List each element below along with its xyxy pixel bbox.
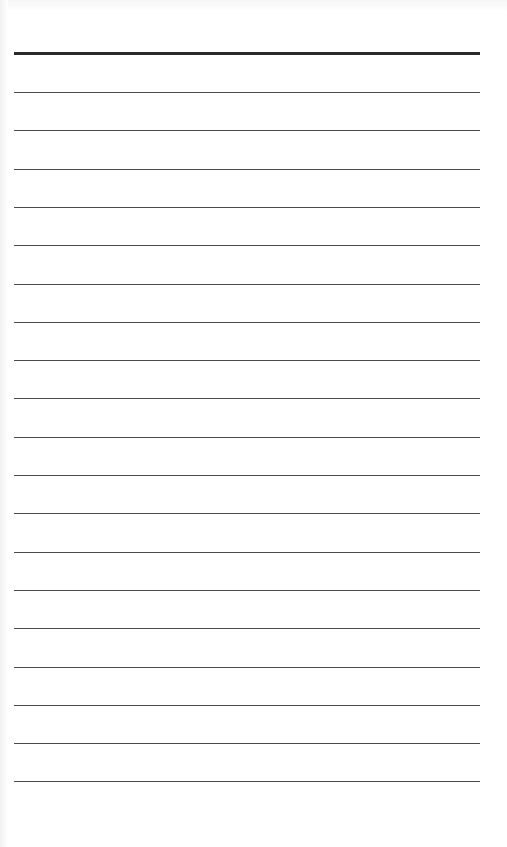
ruled-line <box>14 475 480 476</box>
ruled-line <box>14 284 480 285</box>
ruled-line <box>14 590 480 591</box>
ruled-line <box>14 360 480 361</box>
scan-bleed-through <box>0 0 507 12</box>
scan-edge-shadow <box>0 0 8 847</box>
ruled-line <box>14 781 480 782</box>
ruled-line <box>14 245 480 246</box>
ruled-line <box>14 322 480 323</box>
ruled-line <box>14 513 480 514</box>
ruled-line <box>14 398 480 399</box>
ruled-line <box>14 628 480 629</box>
ruled-line <box>14 705 480 706</box>
ruled-line <box>14 169 480 170</box>
header-rule <box>14 52 480 55</box>
ruled-line <box>14 130 480 131</box>
ruled-line <box>14 207 480 208</box>
ruled-line <box>14 92 480 93</box>
ruled-line <box>14 667 480 668</box>
ruled-line <box>14 437 480 438</box>
ruled-line <box>14 552 480 553</box>
ruled-line <box>14 743 480 744</box>
